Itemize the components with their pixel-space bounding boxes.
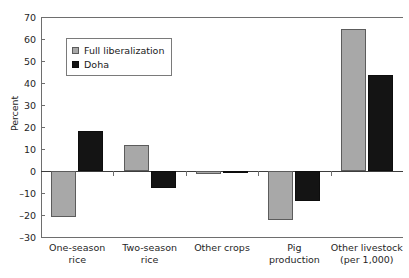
bar-full-liberalization	[341, 29, 366, 171]
legend-item-doha: Doha	[72, 57, 164, 71]
bar-full-liberalization	[268, 171, 293, 220]
y-axis-tick-label: 20	[8, 122, 36, 133]
x-axis-category-label-line: (per 1,000)	[325, 254, 409, 266]
bar-doha	[78, 131, 103, 171]
x-axis-category-labels: One-seasonriceTwo-seasonriceOther cropsP…	[41, 242, 403, 276]
x-axis-category-label-line: Other livestock	[325, 242, 409, 254]
bar-group	[196, 17, 248, 237]
bar-doha	[223, 171, 248, 173]
bar-full-liberalization	[51, 171, 76, 217]
y-axis-tick-label: 60	[8, 34, 36, 45]
x-axis-tick-mark	[113, 171, 114, 176]
legend-label-doha: Doha	[84, 59, 109, 70]
x-axis-category-label-line: rice	[107, 254, 191, 266]
y-axis-tick-label: 10	[8, 144, 36, 155]
legend-swatch-icon-doha	[72, 61, 79, 68]
x-axis-tick-mark	[186, 171, 187, 176]
y-axis-tick-label: 40	[8, 78, 36, 89]
chart-legend: Full liberalization Doha	[66, 38, 172, 76]
legend-swatch-icon-full-liberalization	[72, 47, 79, 54]
bar-doha	[151, 171, 176, 188]
bar-full-liberalization	[124, 145, 149, 171]
y-axis-tick-mark	[41, 237, 45, 238]
bar-group	[268, 17, 320, 237]
bar-doha	[368, 75, 393, 171]
axis-bottom-rule	[41, 237, 403, 238]
bar-chart: Percent 706050403020100–10–20–30 One-sea…	[0, 0, 409, 278]
y-axis-tick-label: 70	[8, 12, 36, 23]
x-axis-tick-mark	[258, 171, 259, 176]
bar-doha	[295, 171, 320, 201]
y-axis-tick-label: 0	[8, 166, 36, 177]
x-axis-tick-mark	[331, 171, 332, 176]
y-axis-tick-label: –30	[8, 232, 36, 243]
y-axis-tick-label: –20	[8, 210, 36, 221]
legend-label-full-liberalization: Full liberalization	[84, 45, 164, 56]
bar-group	[341, 17, 393, 237]
y-axis-tick-label: 50	[8, 56, 36, 67]
y-axis-tick-labels: 706050403020100–10–20–30	[8, 0, 36, 278]
x-axis-category-label: Other livestock(per 1,000)	[325, 242, 409, 266]
bar-full-liberalization	[196, 171, 221, 174]
legend-item-full-liberalization: Full liberalization	[72, 43, 164, 57]
y-axis-tick-label: –10	[8, 188, 36, 199]
y-axis-tick-label: 30	[8, 100, 36, 111]
